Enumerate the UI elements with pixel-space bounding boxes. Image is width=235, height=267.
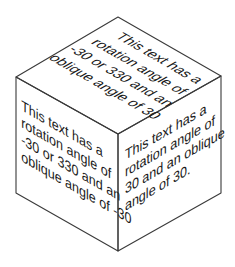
top-face-text: This text has a rotation angle of -30 or… xyxy=(45,22,217,121)
isometric-cube-diagram: This text has a rotation angle of -30 or… xyxy=(0,0,235,267)
left-face-text: This text has a rotation angle of -30 or… xyxy=(21,97,131,228)
